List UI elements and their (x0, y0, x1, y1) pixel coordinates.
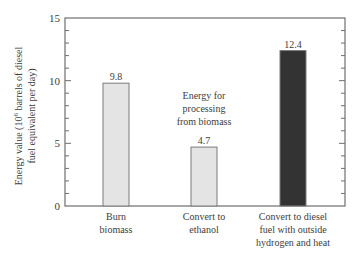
y-axis-label-line-1: Energy value (106 barrels of diesel (12, 47, 25, 186)
y-tick-label: 0 (55, 200, 61, 212)
x-category-label: biomass (100, 224, 133, 235)
bar-1 (103, 83, 129, 206)
x-category-label: hydrogen and heat (256, 237, 330, 248)
value-label: 12.4 (284, 39, 302, 50)
value-label: 4.7 (198, 135, 211, 146)
bar-3 (280, 51, 306, 206)
value-label: 9.8 (110, 71, 123, 82)
y-tick-label: 5 (55, 137, 61, 149)
x-category-label: ethanol (189, 224, 219, 235)
bar-chart: Energy value (106 barrels of dieselfuel … (0, 0, 362, 257)
x-category-labels: BurnbiomassConvert toethanolConvert to d… (100, 211, 331, 248)
annotation-text: Energy for (183, 90, 227, 101)
annotation-text: processing (183, 103, 226, 114)
x-category-label: Convert to (183, 211, 226, 222)
y-tick-labels: 051015 (49, 12, 61, 212)
annotation: Energy forprocessingfrom biomass (177, 90, 232, 127)
bar-2 (191, 147, 217, 206)
y-axis-label: Energy value (106 barrels of dieselfuel … (12, 47, 38, 186)
x-category-label: Burn (106, 211, 126, 222)
bars (103, 51, 306, 206)
y-tick-label: 10 (49, 75, 61, 87)
y-tick-label: 15 (49, 12, 61, 24)
annotation-text: from biomass (177, 116, 232, 127)
y-axis-label-line-2: fuel equivalent per day) (26, 68, 38, 163)
x-category-label: fuel with outside (259, 224, 327, 235)
x-category-label: Convert to diesel (259, 211, 328, 222)
